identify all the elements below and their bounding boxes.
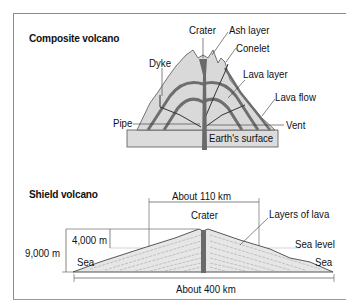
- composite-volcano-title: Composite volcano: [29, 32, 119, 44]
- label-sea-left: Sea: [77, 256, 94, 268]
- label-layers-of-lava: Layers of lava: [269, 208, 329, 220]
- label-vent: Vent: [286, 119, 305, 131]
- label-lava-flow: Lava flow: [275, 91, 316, 103]
- label-about-110km: About 110 km: [172, 190, 231, 202]
- label-dyke: Dyke: [149, 57, 171, 69]
- label-conelet: Conelet: [236, 42, 269, 54]
- shield-volcano-title: Shield volcano: [29, 188, 98, 200]
- label-sea-level: Sea level: [295, 238, 335, 250]
- label-lava-layer: Lava layer: [243, 68, 288, 80]
- label-ash-layer: Ash layer: [229, 24, 269, 36]
- label-pipe: Pipe: [113, 117, 132, 129]
- label-9000m: 9,000 m: [25, 247, 60, 259]
- label-about-400km: About 400 km: [176, 283, 236, 295]
- label-shield-crater: Crater: [191, 209, 218, 221]
- label-crater: Crater: [189, 24, 216, 36]
- label-sea-right: Sea: [315, 256, 332, 268]
- label-4000m: 4,000 m: [72, 234, 107, 246]
- label-earths-surface: Earth's surface: [209, 132, 273, 144]
